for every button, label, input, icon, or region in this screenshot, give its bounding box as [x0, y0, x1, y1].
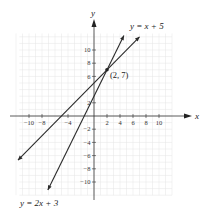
- x-axis-label: x: [194, 111, 199, 121]
- line1-label: y = x + 5: [129, 21, 164, 31]
- intersection-point: [105, 68, 109, 72]
- line2-label: y = 2x + 3: [19, 198, 59, 208]
- x-tick-label: −10: [24, 119, 34, 126]
- y-tick-label: 6: [87, 73, 91, 80]
- x-axis-arrow-icon: [184, 114, 192, 119]
- y-tick-label: −8: [84, 165, 91, 172]
- y-tick-label: −2: [84, 125, 91, 132]
- x-tick-label: 10: [156, 119, 163, 126]
- y-tick-label: 10: [84, 46, 91, 53]
- x-tick-label: 2: [105, 119, 108, 126]
- y-axis-label: y: [90, 8, 95, 18]
- intersection-label: (2, 7): [110, 70, 129, 80]
- line-y-equals-x-plus-5: [18, 37, 140, 160]
- coordinate-plane: xy −10−8−424681010862−2−4−6−8−10 (2, 7)y…: [0, 0, 211, 211]
- y-tick-label: −6: [84, 152, 92, 159]
- x-tick-label: −8: [39, 119, 46, 126]
- y-axis-arrow-icon: [92, 19, 97, 27]
- y-tick-label: −4: [84, 139, 92, 146]
- y-tick-label: 8: [87, 59, 90, 66]
- x-tick-label: 8: [144, 119, 147, 126]
- x-tick-label: −4: [65, 119, 73, 126]
- lines: [18, 35, 140, 189]
- y-tick-label: −10: [80, 178, 90, 185]
- annotations: (2, 7)y = x + 5y = 2x + 3: [19, 21, 164, 208]
